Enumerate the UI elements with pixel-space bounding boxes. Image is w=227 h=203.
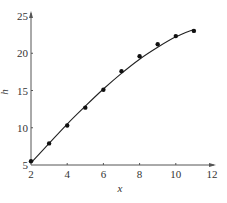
x-axis-label: x: [117, 182, 123, 194]
x-tick-label: 10: [170, 168, 182, 180]
data-point: [156, 42, 160, 46]
x-tick-label: 6: [101, 168, 107, 180]
data-point: [119, 69, 123, 73]
x-axis-arrow-icon: [209, 163, 216, 167]
data-point: [174, 34, 178, 38]
data-points: [29, 29, 196, 164]
data-point: [137, 54, 141, 58]
data-point: [65, 123, 69, 127]
y-tick-label: 20: [17, 47, 29, 59]
fitted-curve-path: [31, 29, 194, 162]
data-point: [47, 141, 51, 145]
fitted-curve: [31, 29, 194, 162]
chart: 24681012510152025 x h: [0, 0, 227, 203]
y-axis-label: h: [0, 89, 10, 95]
data-point: [29, 159, 33, 163]
x-tick-label: 8: [137, 168, 143, 180]
data-point: [192, 29, 196, 33]
y-axis-arrow-icon: [29, 11, 33, 18]
y-tick-label: 25: [17, 10, 29, 22]
data-point: [101, 88, 105, 92]
axes: 24681012510152025: [17, 10, 218, 180]
y-tick-label: 5: [23, 159, 29, 171]
x-tick-label: 4: [64, 168, 70, 180]
y-tick-label: 15: [17, 85, 29, 97]
y-tick-label: 10: [17, 122, 29, 134]
x-tick-label: 2: [28, 168, 34, 180]
data-point: [83, 105, 87, 109]
x-tick-label: 12: [207, 168, 218, 180]
